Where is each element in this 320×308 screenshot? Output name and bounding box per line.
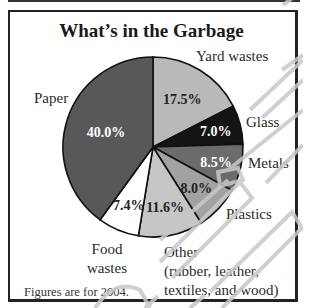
pie-value-label: 17.5% xyxy=(163,92,202,107)
label-food-line1: Food xyxy=(86,240,128,259)
pie-value-label: 7.4% xyxy=(113,198,145,213)
pie-value-label: 7.0% xyxy=(200,124,232,139)
pie-value-label: 8.0% xyxy=(181,181,213,196)
label-metals: Metals xyxy=(248,154,289,173)
label-food-wastes: Food wastes xyxy=(86,240,128,278)
label-other-line1: Other xyxy=(164,243,279,262)
pie-value-label: 11.6% xyxy=(146,200,184,215)
label-other-line2: (rubber, leather, xyxy=(164,262,279,281)
pie-value-label: 8.5% xyxy=(200,155,232,170)
label-paper: Paper xyxy=(34,89,68,108)
label-food-line2: wastes xyxy=(86,259,128,278)
label-other-line3: textiles, and wood) xyxy=(164,281,279,300)
label-yard-wastes: Yard wastes xyxy=(196,47,268,66)
label-other: Other (rubber, leather, textiles, and wo… xyxy=(164,243,279,300)
label-plastics: Plastics xyxy=(226,205,272,224)
footnote: Figures are for 2004. xyxy=(24,285,129,300)
pie-value-label: 40.0% xyxy=(87,125,126,140)
label-glass: Glass xyxy=(246,113,279,132)
